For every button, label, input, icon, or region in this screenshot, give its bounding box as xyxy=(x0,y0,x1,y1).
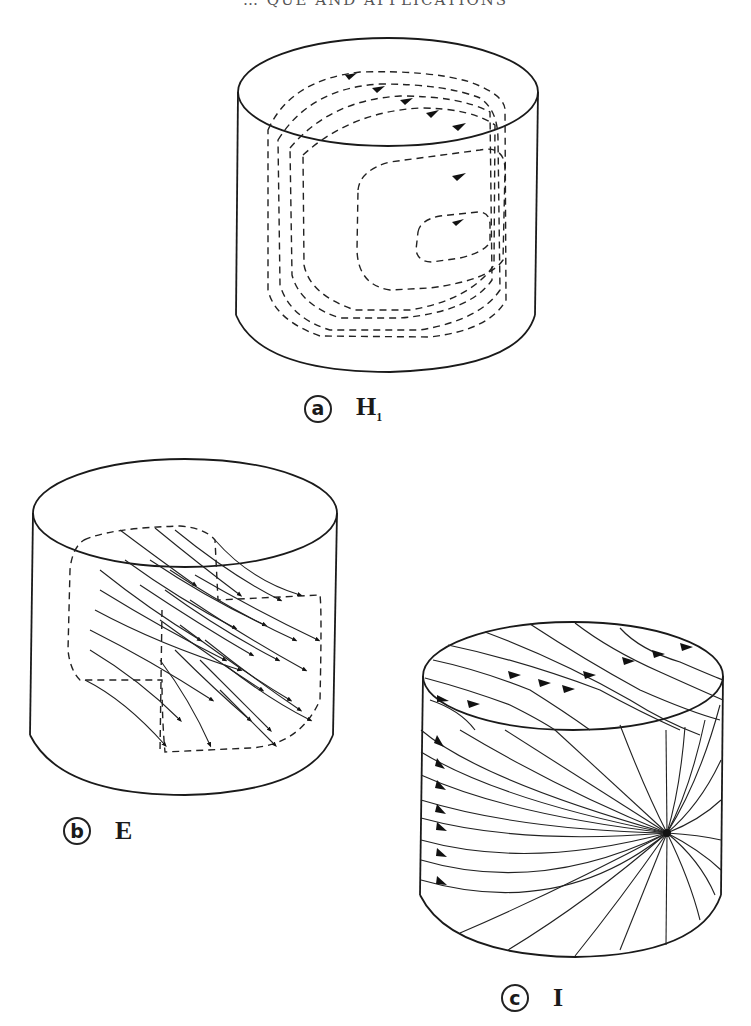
mode-name-b: E xyxy=(115,816,132,845)
figure-letter-c: c xyxy=(501,984,529,1012)
label-a: a H1 xyxy=(304,392,382,425)
figure-canvas xyxy=(0,0,751,1026)
mode-label-b: E xyxy=(115,816,132,846)
cylinder-a xyxy=(236,38,538,372)
field-lines-a xyxy=(268,72,506,337)
mode-name-a: H xyxy=(356,392,376,421)
figure-letter-a: a xyxy=(304,395,332,423)
mode-name-c: I xyxy=(553,983,563,1012)
arrowheads-c-side xyxy=(434,735,447,885)
label-c: c I xyxy=(501,983,563,1013)
label-b: b E xyxy=(63,816,132,846)
field-lines-c-top xyxy=(425,623,723,735)
field-lines-c-side xyxy=(421,705,721,956)
arrowheads-a xyxy=(345,73,466,226)
arrowheads-c-top xyxy=(437,643,693,708)
mode-label-c: I xyxy=(553,983,563,1013)
mode-subscript-a: 1 xyxy=(376,410,382,424)
figure-letter-b: b xyxy=(63,817,91,845)
singular-point-c xyxy=(663,829,671,837)
mode-label-a: H1 xyxy=(356,392,382,425)
field-lines-b xyxy=(85,528,318,745)
